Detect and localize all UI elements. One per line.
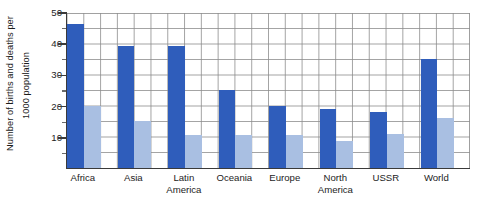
chart-figure: Number of births and deaths per 1000 pop…	[0, 0, 480, 219]
bar	[67, 24, 84, 168]
bar	[421, 59, 438, 168]
bar	[134, 121, 151, 168]
bar	[219, 90, 236, 168]
bar	[84, 106, 101, 168]
bar	[320, 109, 337, 168]
bar-series-container	[67, 13, 470, 168]
x-axis-tick-label-line: America	[295, 184, 375, 196]
bar	[387, 134, 404, 168]
y-axis-title-line-1: Number of births and deaths per	[6, 16, 15, 151]
bar	[269, 106, 286, 168]
x-axis-tick-label-line: America	[144, 184, 224, 196]
bar	[118, 46, 135, 168]
bar	[437, 118, 454, 168]
x-axis-tick-label: World	[396, 172, 476, 184]
bar	[235, 135, 252, 168]
y-axis-tick-labels: 10 20 30 40 50	[38, 0, 62, 219]
bar	[286, 135, 303, 168]
plot-area	[66, 13, 470, 169]
bar	[185, 135, 202, 168]
x-axis-tick-labels: AfricaAsiaLatinAmericaOceaniaEuropeNorth…	[66, 172, 470, 218]
y-axis-title-line-2: 1000 population	[22, 52, 31, 119]
bar	[168, 46, 185, 168]
y-axis-title: Number of births and deaths per 1000 pop…	[0, 0, 40, 219]
x-axis-tick-label-line: World	[396, 172, 476, 184]
bar	[336, 141, 353, 168]
bar	[370, 112, 387, 168]
